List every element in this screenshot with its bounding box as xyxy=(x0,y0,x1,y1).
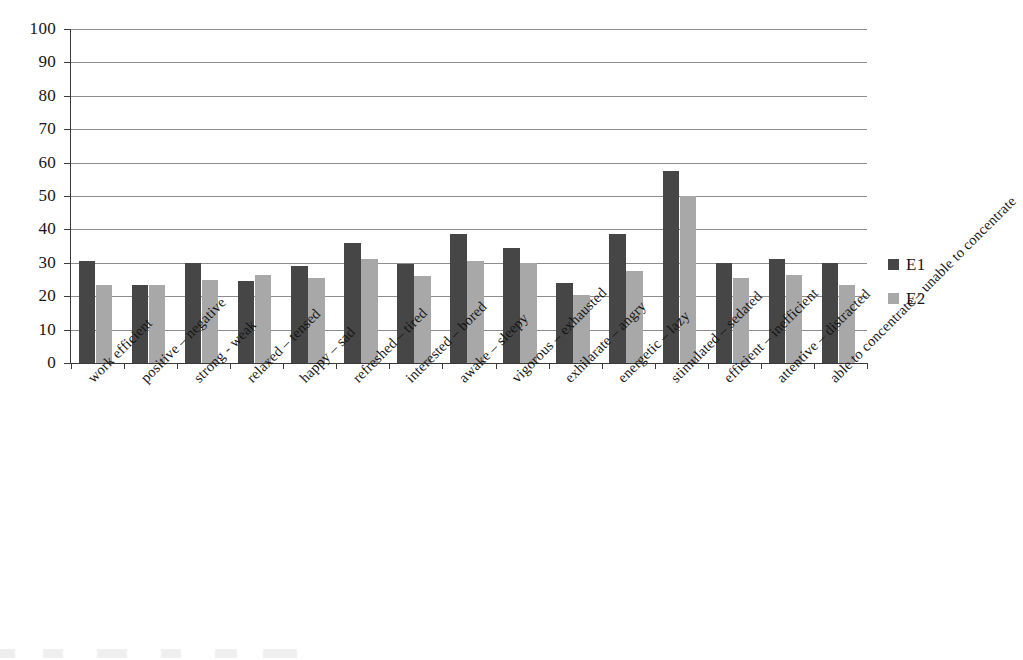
legend-label: E2 xyxy=(906,290,926,307)
bar-chart: work efficientpositive – negativestrong … xyxy=(0,0,1023,660)
x-axis-labels: work efficientpositive – negativestrong … xyxy=(0,0,1023,660)
y-axis-tick-label: 100 xyxy=(0,20,56,37)
y-axis-tick-label: 80 xyxy=(0,87,56,104)
y-axis-tick-label: 90 xyxy=(0,53,56,70)
x-axis-label: attentive – distracted xyxy=(774,286,873,385)
scan-artifact xyxy=(0,649,330,658)
y-axis-tick-label: 70 xyxy=(0,120,56,137)
legend-swatch-e1 xyxy=(888,259,899,270)
legend-swatch-e2 xyxy=(888,293,899,304)
legend-item-e2: E2 xyxy=(888,281,1008,315)
x-axis-label: vigorous – exhausted xyxy=(509,285,610,386)
legend-item-e1: E1 xyxy=(888,247,1008,281)
y-axis-tick-label: 40 xyxy=(0,220,56,237)
legend-label: E1 xyxy=(906,256,926,273)
x-axis-label: stimulated – sedated xyxy=(668,288,765,385)
y-axis-tick-label: 60 xyxy=(0,154,56,171)
chart-legend: E1E2 xyxy=(888,247,1008,315)
y-axis-tick-label: 30 xyxy=(0,254,56,271)
x-axis-label: efficient – inefficient xyxy=(721,286,821,386)
y-axis-tick-label: 10 xyxy=(0,321,56,338)
y-axis-tick-label: 50 xyxy=(0,187,56,204)
y-axis-tick-label: 0 xyxy=(0,354,56,371)
y-axis-tick-label: 20 xyxy=(0,287,56,304)
